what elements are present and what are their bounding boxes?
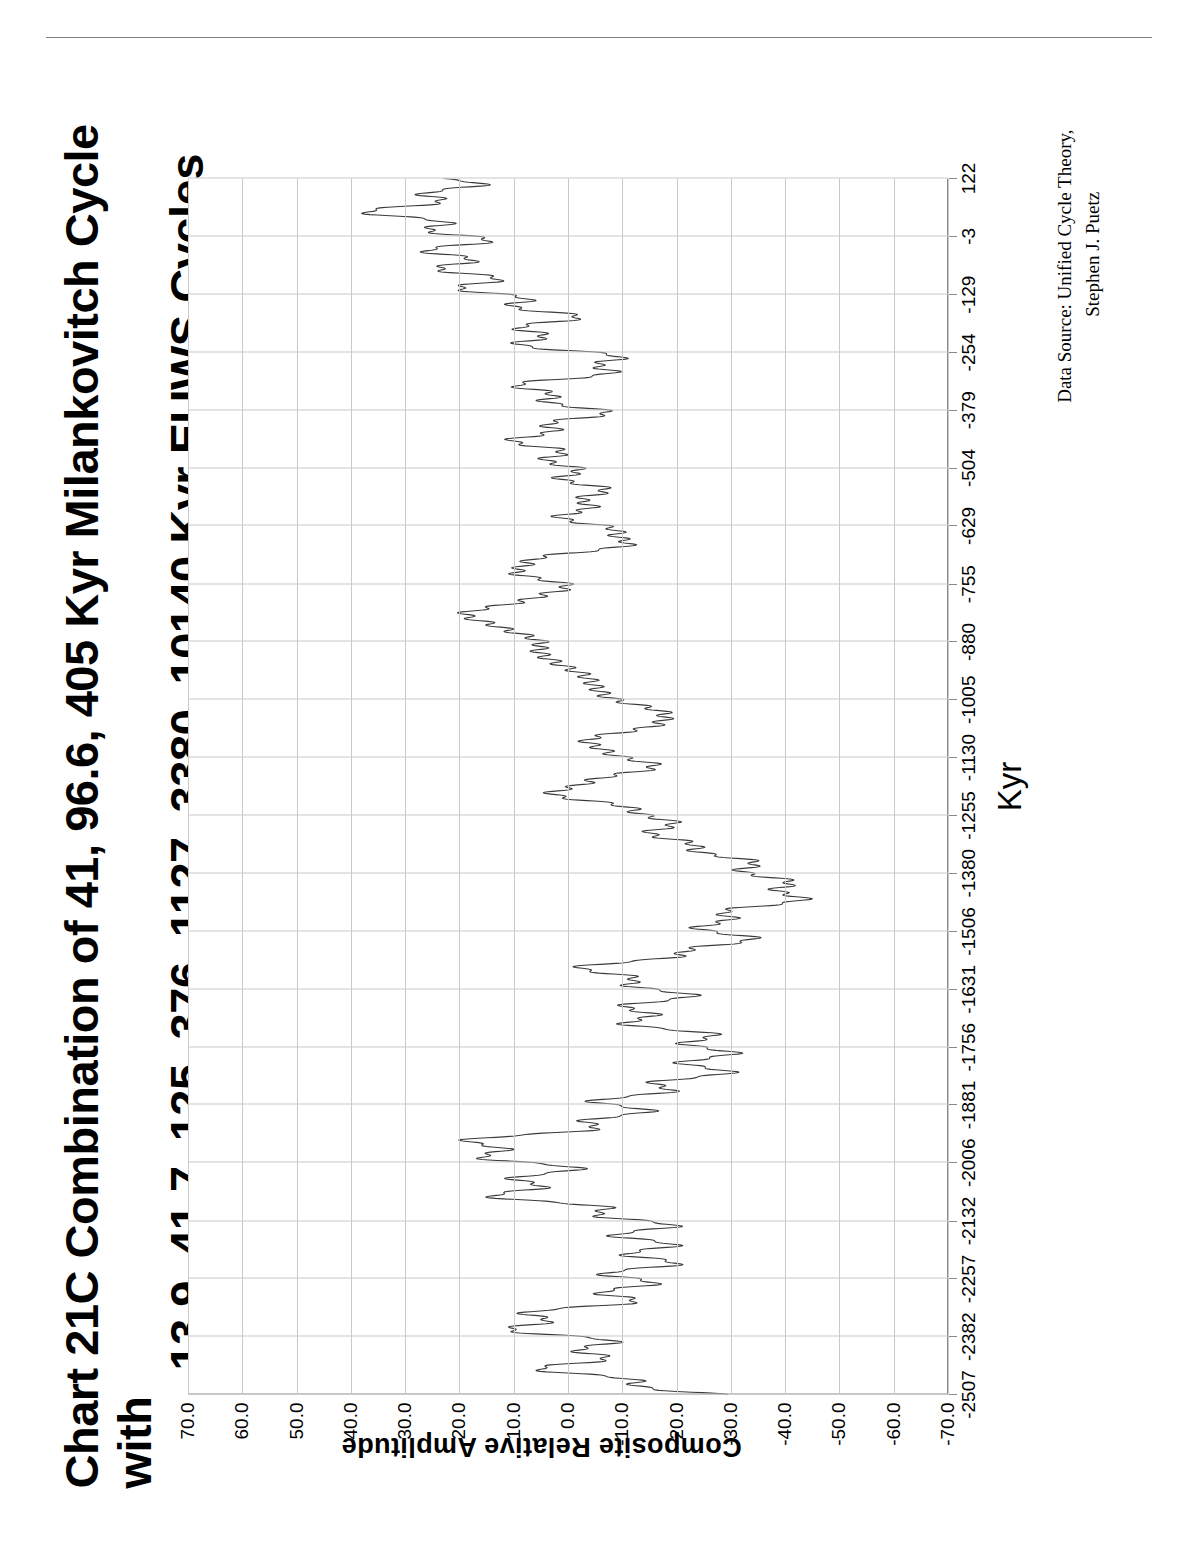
y-tick-label: -70.0 [937, 1402, 959, 1445]
gridline-vertical [188, 814, 948, 815]
x-tick-mark [949, 1394, 957, 1395]
x-tick-label: -880 [958, 622, 980, 660]
gridline-vertical [188, 524, 948, 525]
gridline-vertical [188, 872, 948, 873]
x-tick-label: -755 [958, 565, 980, 603]
x-tick-mark [949, 814, 957, 815]
x-tick-mark [949, 1336, 957, 1337]
x-tick-label: -504 [958, 449, 980, 487]
x-tick-label: -629 [958, 506, 980, 544]
x-tick-mark [949, 294, 957, 295]
gridline-vertical [188, 640, 948, 641]
gridline-horizontal [297, 178, 298, 1394]
x-tick-mark [949, 235, 957, 236]
x-tick-mark [949, 641, 957, 642]
x-tick-mark [949, 467, 957, 468]
x-tick-label: -2132 [958, 1196, 980, 1245]
gridline-horizontal [405, 178, 406, 1394]
x-tick-mark [949, 757, 957, 758]
x-tick-mark [949, 583, 957, 584]
gridline-vertical [188, 293, 948, 294]
x-tick-mark [949, 1162, 957, 1163]
gridline-vertical [188, 1103, 948, 1104]
gridline-vertical [188, 756, 948, 757]
y-axis-title: Composite Relative Amplitude [162, 1431, 922, 1462]
gridline-vertical [188, 583, 948, 584]
x-tick-label: -2257 [958, 1254, 980, 1303]
gridline-horizontal [622, 178, 623, 1394]
x-tick-mark [949, 1220, 957, 1221]
gridline-horizontal [514, 178, 515, 1394]
gridline-horizontal [894, 178, 895, 1394]
gridline-vertical [188, 1220, 948, 1221]
rotated-page-content: Chart 21C Combination of 41, 96.6, 405 K… [46, 37, 1152, 1514]
x-tick-mark [949, 525, 957, 526]
series-path [362, 178, 813, 1394]
plot-area [188, 178, 948, 1394]
data-source-credit: Data Source: Unified Cycle Theory, Steph… [1051, 129, 1106, 402]
gridline-horizontal [948, 178, 949, 1394]
gridline-vertical [188, 930, 948, 931]
x-tick-mark [949, 178, 957, 179]
gridline-horizontal [351, 178, 352, 1394]
x-tick-mark [949, 988, 957, 989]
x-tick-label: -2006 [958, 1138, 980, 1187]
gridline-vertical [188, 1335, 948, 1336]
gridline-horizontal [731, 178, 732, 1394]
x-tick-mark [949, 409, 957, 410]
gridline-vertical [188, 409, 948, 410]
x-tick-label: 122 [958, 162, 980, 194]
gridline-vertical [188, 1277, 948, 1278]
x-tick-mark [949, 872, 957, 873]
x-tick-label: -254 [958, 333, 980, 371]
x-tick-label: -1631 [958, 965, 980, 1014]
x-tick-label: -1380 [958, 848, 980, 897]
gridline-vertical [188, 988, 948, 989]
gridline-vertical [188, 177, 948, 178]
x-tick-mark [949, 1278, 957, 1279]
x-axis-title: Kyr [991, 178, 1029, 1394]
x-tick-mark [949, 351, 957, 352]
x-tick-label: -1005 [958, 675, 980, 724]
x-tick-mark [949, 1046, 957, 1047]
x-tick-mark [949, 1104, 957, 1105]
x-tick-label: -2382 [958, 1312, 980, 1361]
x-tick-label: -1756 [958, 1022, 980, 1071]
x-tick-mark [949, 931, 957, 932]
x-axis-tick-labels: -2507-2382-2257-2132-2006-1881-1756-1631… [958, 178, 988, 1394]
data-source-line-2: Stephen J. Puetz [1079, 129, 1107, 402]
data-source-line-1: Data Source: Unified Cycle Theory, [1054, 129, 1075, 402]
gridline-horizontal [242, 178, 243, 1394]
gridline-horizontal [785, 178, 786, 1394]
chart-title-line-1: Chart 21C Combination of 41, 96.6, 405 K… [55, 124, 161, 1488]
gridline-vertical [188, 235, 948, 236]
x-tick-label: -1255 [958, 791, 980, 840]
chart-root: Chart 21C Combination of 41, 96.6, 405 K… [46, 37, 1152, 1514]
y-tick-label: 0.0 [557, 1402, 579, 1428]
x-tick-label: -1506 [958, 907, 980, 956]
gridline-vertical [188, 1393, 948, 1394]
gridline-horizontal [677, 178, 678, 1394]
gridline-vertical [188, 698, 948, 699]
gridline-vertical [188, 1046, 948, 1047]
x-tick-label: -129 [958, 275, 980, 313]
x-tick-label: -1130 [958, 734, 980, 781]
x-tick-label: -2507 [958, 1370, 980, 1419]
x-tick-label: -1881 [958, 1080, 980, 1129]
x-tick-label: -3 [958, 227, 980, 244]
gridline-vertical [188, 467, 948, 468]
x-tick-label: -379 [958, 391, 980, 429]
gridline-horizontal [188, 178, 189, 1394]
gridline-vertical [188, 1161, 948, 1162]
gridline-horizontal [459, 178, 460, 1394]
gridline-vertical [188, 351, 948, 352]
gridline-horizontal [839, 178, 840, 1394]
x-tick-mark [949, 699, 957, 700]
gridline-horizontal [568, 178, 569, 1394]
